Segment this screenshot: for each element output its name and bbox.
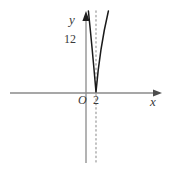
x-axis-label: x (150, 95, 156, 108)
y-axis-label: y (69, 13, 75, 26)
origin-label: O (78, 94, 87, 106)
plot-canvas (0, 0, 171, 171)
y-tick-label-12: 12 (64, 33, 76, 45)
x-tick-label-2: 2 (93, 94, 99, 106)
parabola-figure: y x 12 O 2 (0, 0, 171, 171)
parabola-curve (88, 11, 108, 92)
y-axis (82, 11, 89, 163)
